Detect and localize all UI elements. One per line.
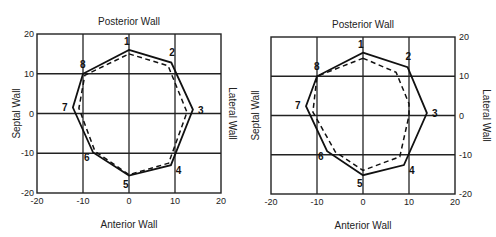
segment-label-7: 7 [62, 102, 68, 113]
posterior-wall-label: Posterior Wall [332, 19, 394, 30]
septal-wall-label: Septal Wall [250, 90, 261, 140]
x-tick-label: -10 [310, 197, 323, 207]
x-tick-label: 0 [126, 196, 131, 206]
segment-label-6: 6 [84, 152, 90, 163]
anterior-wall-label: Anterior Wall [101, 219, 158, 230]
segment-label-2: 2 [169, 47, 175, 58]
x-tick-label: -10 [76, 196, 89, 206]
y-tick-label: -20 [21, 188, 34, 198]
segment-label-3: 3 [432, 108, 438, 119]
x-tick-label: 20 [216, 196, 226, 206]
segment-label-1: 1 [124, 36, 130, 47]
right-wall-motion-plot: -20-100102020100-10-20Posterior WallAnte… [250, 19, 492, 231]
x-tick-label: 10 [404, 197, 414, 207]
x-tick-label: -20 [264, 197, 277, 207]
x-tick-label: 10 [170, 196, 180, 206]
segment-label-4: 4 [409, 165, 415, 176]
y-tick-label: 20 [459, 32, 469, 42]
segment-label-4: 4 [176, 165, 182, 176]
lateral-wall-label: Lateral Wall [481, 89, 492, 141]
polar-wall-motion-figure: -20-100102020100-10-20Posterior WallAnte… [0, 0, 496, 237]
y-tick-label: 20 [24, 29, 34, 39]
segment-label-6: 6 [318, 151, 324, 162]
lateral-wall-label: Lateral Wall [227, 87, 238, 139]
segment-label-3: 3 [198, 105, 204, 116]
y-tick-label: 10 [459, 71, 469, 81]
y-tick-label: -20 [459, 189, 472, 199]
segment-label-2: 2 [406, 51, 412, 62]
anterior-wall-label: Anterior Wall [335, 220, 392, 231]
segment-label-8: 8 [80, 59, 86, 70]
segment-label-1: 1 [358, 39, 364, 50]
y-tick-label: -10 [21, 148, 34, 158]
x-tick-label: 0 [360, 197, 365, 207]
segment-label-5: 5 [357, 178, 363, 189]
dashed-contour [79, 54, 187, 175]
y-tick-label: -10 [459, 150, 472, 160]
y-tick-label: 0 [459, 111, 464, 121]
dashed-contour [313, 58, 409, 170]
y-tick-label: 10 [24, 69, 34, 79]
left-wall-motion-plot: -20-100102020100-10-20Posterior WallAnte… [11, 16, 238, 230]
segment-label-7: 7 [295, 100, 301, 111]
posterior-wall-label: Posterior Wall [98, 16, 160, 27]
septal-wall-label: Septal Wall [11, 88, 22, 138]
y-tick-label: 0 [29, 109, 34, 119]
segment-label-5: 5 [123, 179, 129, 190]
segment-label-8: 8 [314, 61, 320, 72]
